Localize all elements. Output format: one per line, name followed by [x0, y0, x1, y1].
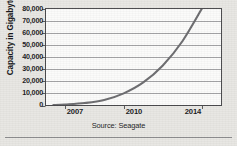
- y-tick-label: 10,000: [12, 89, 43, 97]
- y-tick-label: 60,000: [12, 29, 43, 37]
- plot-background: [46, 9, 222, 106]
- y-tick-label: 40,000: [12, 53, 43, 61]
- chart-figure: Capacity in Gigabytes 80,000 70,000 60,0…: [0, 0, 237, 146]
- y-tick-label: 20,000: [12, 77, 43, 85]
- x-tick-label: 2014: [173, 107, 213, 116]
- y-tick-label: 50,000: [12, 41, 43, 49]
- y-tick-label: 30,000: [12, 65, 43, 73]
- source-caption: Source: Seagate: [0, 121, 237, 130]
- y-tick-label: 70,000: [12, 17, 43, 25]
- y-tick-label: 80,000: [12, 5, 43, 13]
- x-tick-label: 2007: [55, 107, 95, 116]
- y-tick-label: 0: [12, 101, 43, 109]
- x-tick-label: 2010: [114, 107, 154, 116]
- bottom-divider: [5, 137, 232, 138]
